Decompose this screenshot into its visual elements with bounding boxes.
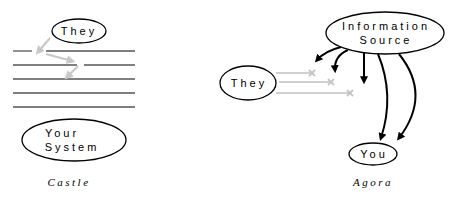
castle-your-system-node: Your System bbox=[22, 119, 126, 161]
agora-panel: Information Source They You Agora bbox=[220, 12, 444, 188]
castle-system-label-line1: Your bbox=[45, 127, 79, 139]
agora-you-label: You bbox=[360, 148, 388, 160]
castle-panel: They Your System Castle bbox=[13, 19, 135, 188]
intrusion-arrows bbox=[38, 38, 78, 77]
intrusion-arrow-3 bbox=[67, 66, 78, 77]
flow-arrow-5 bbox=[399, 54, 416, 138]
castle-they-label: They bbox=[61, 25, 97, 37]
castle-walls bbox=[13, 51, 135, 107]
agora-they-label: They bbox=[231, 77, 267, 89]
castle-agora-diagram: They Your System Castle bbox=[0, 0, 456, 198]
intrusion-arrow-2 bbox=[46, 54, 72, 61]
intrusion-arrow-1 bbox=[38, 38, 50, 52]
agora-they-node: They bbox=[220, 66, 276, 100]
castle-system-label-line2: System bbox=[45, 141, 100, 153]
agora-caption: Agora bbox=[352, 176, 393, 188]
flow-arrow-4 bbox=[378, 54, 387, 138]
information-source-node: Information Source bbox=[326, 12, 444, 54]
agora-you-node: You bbox=[349, 143, 397, 165]
source-label-line1: Information bbox=[342, 20, 430, 32]
castle-they-node: They bbox=[52, 19, 106, 43]
blocked-attempts bbox=[276, 70, 353, 96]
flow-arrow-2 bbox=[335, 50, 348, 70]
castle-caption: Castle bbox=[47, 176, 90, 188]
source-label-line2: Source bbox=[360, 34, 413, 46]
